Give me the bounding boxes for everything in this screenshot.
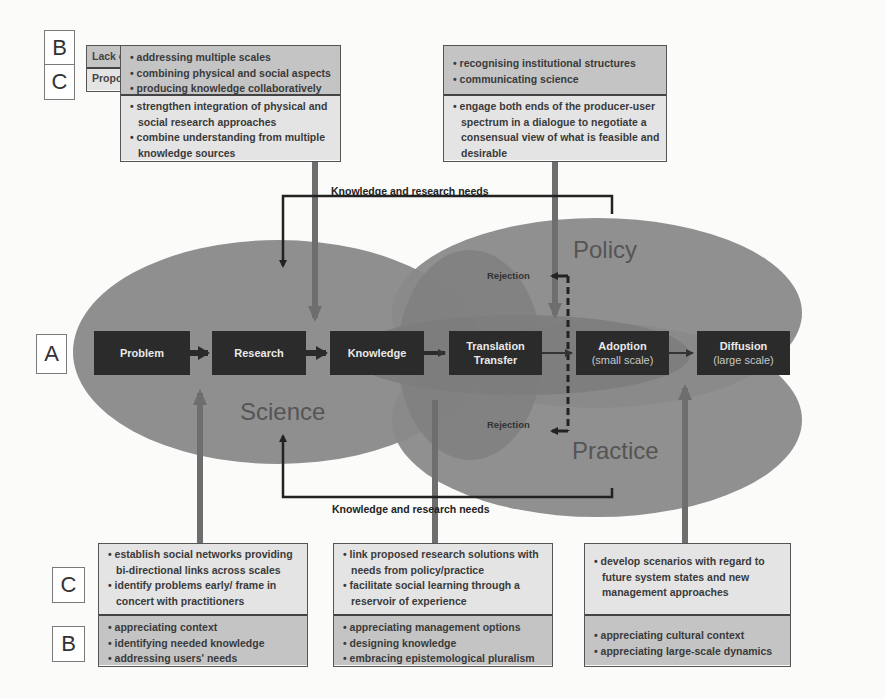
sphere-label-policy: Policy	[573, 236, 637, 264]
bottom-panel-science-proposed: establish social networks providing bi-d…	[99, 544, 307, 614]
bullet: combining physical and social aspects	[127, 66, 334, 82]
sphere-label-practice: Practice	[572, 437, 659, 465]
bullet: designing knowledge	[340, 636, 546, 652]
bottom-label-c: C	[52, 567, 85, 603]
legend-label-c: C	[44, 65, 75, 100]
legend-label-b: B	[44, 30, 75, 65]
bullet: embracing epistemological pluralism	[340, 651, 546, 667]
bottom-panel-translation-proposed: link proposed research solutions with ne…	[334, 544, 552, 614]
bottom-panel-science-lack: appreciating context identifying needed …	[99, 614, 307, 665]
feedback-label-top: Knowledge and research needs	[331, 185, 489, 197]
flow-box-adoption: Adoption (small scale)	[576, 331, 669, 375]
bottom-b-text: B	[61, 631, 76, 657]
feedback-label-bottom: Knowledge and research needs	[332, 503, 490, 515]
top-panel-science-proposed: strengthen integration of physical and s…	[121, 96, 340, 160]
flow-subtitle: (large scale)	[713, 353, 774, 367]
bullet: communicating science	[450, 72, 660, 88]
flow-title: Problem	[120, 346, 164, 360]
top-panel-science-lack: addressing multiple scales combining phy…	[121, 46, 340, 96]
bullet: combine understanding from multiple know…	[127, 130, 334, 161]
rejection-label-bottom: Rejection	[487, 419, 530, 430]
flow-box-translation-transfer: Translation Transfer	[449, 331, 542, 375]
bottom-c-text: C	[61, 572, 77, 598]
bullet: recognising institutional structures	[450, 56, 660, 72]
bottom-panel-translation: link proposed research solutions with ne…	[333, 543, 553, 667]
bullet: link proposed research solutions with ne…	[340, 547, 546, 578]
bullet: appreciating context	[105, 620, 301, 636]
bottom-panel-practice-lack: appreciating cultural context appreciati…	[585, 614, 790, 665]
flow-title: Knowledge	[348, 346, 407, 360]
bullet: engage both ends of the producer-user sp…	[450, 99, 660, 161]
top-panel-policy-lack: recognising institutional structures com…	[444, 46, 666, 96]
bullet: appreciating cultural context	[591, 628, 784, 644]
bullet: develop scenarios with regard to future …	[591, 554, 784, 601]
rejection-label-top: Rejection	[487, 270, 530, 281]
bullet: identifying needed knowledge	[105, 636, 301, 652]
bullet: appreciating large-scale dynamics	[591, 644, 784, 660]
bottom-panel-science: establish social networks providing bi-d…	[98, 543, 308, 667]
legend-b-text: B	[52, 35, 67, 61]
bullet: producing knowledge collaboratively	[127, 81, 334, 97]
label-a-text: A	[44, 341, 59, 367]
top-panel-science: addressing multiple scales combining phy…	[120, 45, 341, 162]
flow-box-research: Research	[212, 331, 306, 375]
legend-c-text: C	[52, 69, 68, 95]
bottom-label-b: B	[52, 626, 85, 662]
bullet: addressing multiple scales	[127, 50, 334, 66]
bullet: addressing users' needs	[105, 651, 301, 667]
flow-subtitle: (small scale)	[592, 353, 654, 367]
flow-title: Diffusion	[720, 339, 768, 353]
top-panel-policy-proposed: engage both ends of the producer-user sp…	[444, 96, 666, 160]
bottom-panel-practice: develop scenarios with regard to future …	[584, 543, 791, 667]
flow-box-knowledge: Knowledge	[330, 331, 424, 375]
bullet: strengthen integration of physical and s…	[127, 99, 334, 130]
bottom-panel-practice-proposed: develop scenarios with regard to future …	[585, 544, 790, 614]
flow-title: Adoption	[598, 339, 646, 353]
top-panel-policy: recognising institutional structures com…	[443, 45, 667, 162]
flow-title: Research	[234, 346, 284, 360]
sphere-label-science: Science	[240, 398, 325, 426]
flow-box-problem: Problem	[94, 331, 190, 375]
flow-subtitle: Transfer	[474, 353, 517, 367]
bullet: identify problems early/ frame in concer…	[105, 578, 301, 609]
bullet: establish social networks providing bi-d…	[105, 547, 301, 578]
diagram-canvas: B C Lack of... Proposed to... addressing…	[0, 0, 886, 699]
flow-box-diffusion: Diffusion (large scale)	[697, 331, 790, 375]
bottom-panel-translation-lack: appreciating management options designin…	[334, 614, 552, 665]
flow-title: Translation	[466, 339, 525, 353]
bullet: facilitate social learning through a res…	[340, 578, 546, 609]
bullet: appreciating management options	[340, 620, 546, 636]
label-a: A	[36, 334, 67, 374]
